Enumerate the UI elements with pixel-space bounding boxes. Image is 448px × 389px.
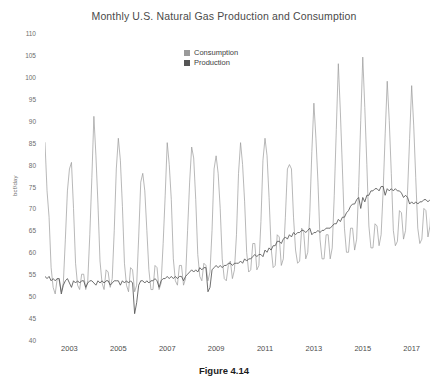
x-axis-tick: 2005 — [110, 344, 127, 353]
chart-title: Monthly U.S. Natural Gas Production and … — [0, 10, 448, 22]
x-axis-tick: 2003 — [61, 344, 78, 353]
y-axis-tick: 90 — [29, 117, 36, 124]
y-axis: 110105100959085807570656055504540 — [0, 26, 44, 356]
chart-plot-svg — [45, 33, 430, 340]
x-axis-tick: 2011 — [257, 344, 273, 353]
y-axis-tick: 110 — [26, 30, 36, 37]
x-axis: 20032005200720092011201320152017 — [45, 344, 430, 358]
y-axis-tick: 80 — [29, 161, 36, 168]
x-axis-tick: 2013 — [306, 344, 323, 353]
series-line-consumption — [45, 57, 430, 294]
y-axis-tick: 40 — [29, 337, 36, 344]
y-axis-tick: 55 — [29, 271, 36, 278]
x-axis-tick: 2015 — [354, 344, 371, 353]
plot-area — [45, 33, 430, 340]
x-axis-tick: 2009 — [208, 344, 225, 353]
figure-caption: Figure 4.14 — [0, 365, 448, 376]
y-axis-tick: 45 — [29, 315, 36, 322]
x-axis-tick: 2007 — [159, 344, 176, 353]
y-axis-tick: 70 — [29, 205, 36, 212]
y-axis-label: bcf/day — [12, 175, 18, 196]
y-axis-tick: 95 — [29, 95, 36, 102]
y-axis-tick: 50 — [29, 293, 36, 300]
x-axis-tick: 2017 — [403, 344, 420, 353]
y-axis-tick: 75 — [29, 183, 36, 190]
figure-container: Monthly U.S. Natural Gas Production and … — [0, 0, 448, 389]
y-axis-tick: 105 — [25, 51, 36, 58]
y-axis-tick: 100 — [25, 73, 36, 80]
y-axis-tick: 65 — [29, 227, 36, 234]
y-axis-tick: 60 — [29, 249, 36, 256]
y-axis-tick: 85 — [29, 139, 36, 146]
